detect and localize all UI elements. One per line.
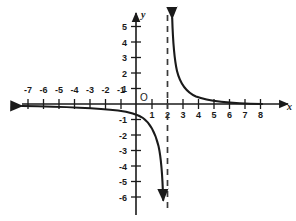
y-tick-label-4: 4 [122,38,127,48]
y-tick-label-2: 2 [122,69,127,79]
y-tick-label--3: -3 [119,146,127,156]
y-tick-label--2: -2 [119,131,127,141]
y-tick-label-3: 3 [122,53,127,63]
origin-label: O [140,92,148,103]
y-axis-label: y [140,9,146,20]
x-tick-label--5: -5 [55,85,63,95]
x-tick-label-1: 1 [149,110,154,120]
y-tick-label--6: -6 [119,193,127,203]
x-tick-label--7: -7 [24,85,32,95]
hyperbola-graph: -7 -6 -5 -4 -3 -2 -1 1 2 3 4 5 6 7 8 -1 … [0,0,296,221]
y-tick-label--5: -5 [119,177,127,187]
x-tick-label--2: -2 [101,85,109,95]
y-tick-label-1: 1 [122,84,127,94]
graph-container: -7 -6 -5 -4 -3 -2 -1 1 2 3 4 5 6 7 8 -1 … [0,0,296,221]
y-tick-label--1: -1 [119,115,127,125]
x-tick-label-4: 4 [196,110,201,120]
x-axis-label: x [286,101,292,112]
x-tick-label-5: 5 [211,110,216,120]
curve-left-branch [22,106,163,200]
y-tick-label--4: -4 [119,162,127,172]
x-tick-label-3: 3 [180,110,185,120]
y-tick-label-5: 5 [122,22,127,32]
curve-right-branch [172,18,262,104]
x-tick-label-6: 6 [227,110,232,120]
x-tick-label--3: -3 [86,85,94,95]
x-tick-label-8: 8 [258,110,263,120]
x-tick-label--4: -4 [70,85,78,95]
x-tick-label-7: 7 [242,110,247,120]
x-tick-label--6: -6 [39,85,47,95]
